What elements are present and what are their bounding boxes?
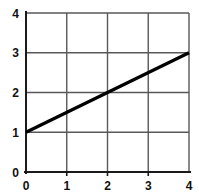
x-tick-label-1: 1 — [63, 179, 70, 193]
y-tick-label-0: 0 — [12, 166, 19, 180]
y-tick-label-3: 3 — [12, 46, 19, 60]
y-axis-tick-labels: 4 3 2 1 0 — [12, 7, 19, 180]
y-tick-label-2: 2 — [12, 86, 19, 100]
x-tick-label-0: 0 — [23, 179, 30, 193]
y-tick-label-1: 1 — [12, 126, 19, 140]
x-tick-label-4: 4 — [186, 179, 193, 193]
line-chart: 4 3 2 1 0 0 1 2 3 4 — [0, 0, 199, 194]
chart-container: 4 3 2 1 0 0 1 2 3 4 — [0, 0, 199, 194]
x-tick-label-3: 3 — [145, 179, 152, 193]
y-tick-label-4: 4 — [12, 7, 19, 21]
x-tick-label-2: 2 — [104, 179, 111, 193]
x-axis-tick-labels: 0 1 2 3 4 — [23, 179, 193, 193]
